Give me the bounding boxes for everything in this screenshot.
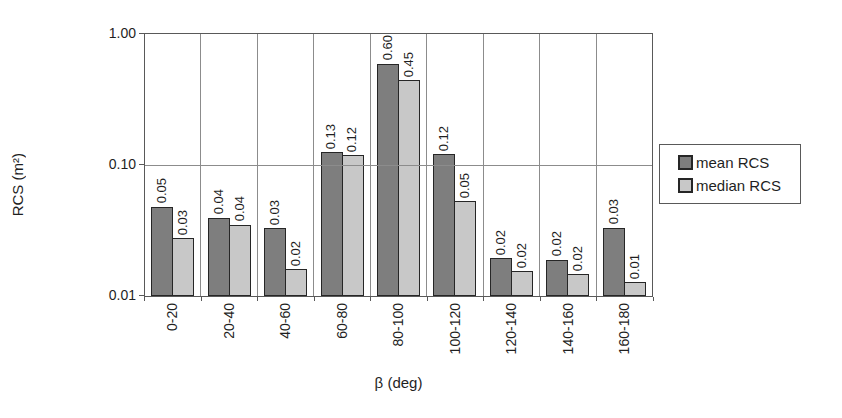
data-label: 0.60 xyxy=(381,35,395,60)
data-label: 0.02 xyxy=(571,246,585,271)
x-label-slot-100-120: 100-120 xyxy=(427,303,484,354)
data-label: 0.02 xyxy=(289,241,303,266)
bar xyxy=(433,154,455,296)
x-category-label: 100-120 xyxy=(448,303,463,354)
x-tick-mark xyxy=(257,297,258,301)
x-label-slot-140-160: 140-160 xyxy=(540,303,597,354)
x-tick-mark xyxy=(370,297,371,301)
data-label: 0.05 xyxy=(155,178,169,203)
data-label: 0.04 xyxy=(212,189,226,214)
x-axis-labels: 0-2020-4040-6060-8080-100100-120120-1401… xyxy=(144,303,653,354)
bar xyxy=(624,282,646,296)
gridline-y-0.1 xyxy=(145,165,652,166)
legend-entry-median-rcs: median RCS xyxy=(678,178,800,193)
legend-label-mean-rcs: mean RCS xyxy=(696,155,769,170)
x-tick-mark xyxy=(314,297,315,301)
data-label: 0.02 xyxy=(550,231,564,256)
x-label-slot-60-80: 60-80 xyxy=(314,303,371,354)
x-tick-mark xyxy=(653,297,654,301)
y-tick-label-0.01: 0.01 xyxy=(88,287,136,303)
x-label-slot-0-20: 0-20 xyxy=(144,303,201,354)
bar xyxy=(208,218,230,296)
x-category-label: 0-20 xyxy=(165,303,180,331)
x-label-slot-80-100: 80-100 xyxy=(370,303,427,354)
bar xyxy=(490,258,512,296)
x-label-slot-40-60: 40-60 xyxy=(257,303,314,354)
legend-swatch-mean-rcs-icon xyxy=(678,155,693,170)
y-axis-title: RCS (m²) xyxy=(4,130,30,240)
y-tick-mark xyxy=(139,33,144,34)
legend-label-median-rcs: median RCS xyxy=(696,178,781,193)
data-label: 0.02 xyxy=(494,230,508,255)
data-label: 0.05 xyxy=(458,173,472,198)
x-category-label: 140-160 xyxy=(561,303,576,354)
y-tick-mark xyxy=(139,164,144,165)
y-tick-label-0.10: 0.10 xyxy=(88,156,136,172)
y-tick-mark xyxy=(139,295,144,296)
data-label: 0.01 xyxy=(628,254,642,279)
bar xyxy=(603,228,625,296)
data-label: 0.45 xyxy=(402,52,416,77)
legend-entry-mean-rcs: mean RCS xyxy=(678,155,800,170)
bar xyxy=(546,260,568,296)
x-category-label: 80-100 xyxy=(391,303,406,347)
bar xyxy=(264,228,286,296)
data-label: 0.03 xyxy=(268,200,282,225)
x-label-slot-160-180: 160-180 xyxy=(597,303,654,354)
x-label-slot-120-140: 120-140 xyxy=(483,303,540,354)
bar xyxy=(398,80,420,296)
bar xyxy=(229,225,251,296)
x-category-label: 120-140 xyxy=(504,303,519,354)
data-label: 0.03 xyxy=(607,199,621,224)
x-tick-mark xyxy=(483,297,484,301)
plot-area: 0.050.030.040.040.030.020.130.120.600.45… xyxy=(144,33,653,297)
x-category-label: 160-180 xyxy=(617,303,632,354)
x-category-label: 60-80 xyxy=(335,303,350,339)
x-category-label: 40-60 xyxy=(278,303,293,339)
bar xyxy=(172,238,194,296)
bar xyxy=(567,274,589,296)
x-tick-mark xyxy=(144,297,145,301)
y-tick-label-1.00: 1.00 xyxy=(88,25,136,41)
x-tick-mark xyxy=(427,297,428,301)
x-tick-mark xyxy=(201,297,202,301)
legend-swatch-median-rcs-icon xyxy=(678,178,693,193)
x-tick-mark xyxy=(596,297,597,301)
x-axis-title: β (deg) xyxy=(144,374,653,391)
data-label: 0.03 xyxy=(176,210,190,235)
bar xyxy=(321,152,343,296)
bar xyxy=(285,269,307,296)
chart-canvas: RCS (m²) 0.050.030.040.040.030.020.130.1… xyxy=(0,0,842,418)
x-label-slot-20-40: 20-40 xyxy=(201,303,258,354)
y-axis-title-text: RCS (m²) xyxy=(9,153,26,216)
data-label: 0.04 xyxy=(233,196,247,221)
bar xyxy=(511,271,533,296)
bar xyxy=(454,201,476,296)
x-tick-mark xyxy=(540,297,541,301)
x-category-label: 20-40 xyxy=(222,303,237,339)
bar xyxy=(377,64,399,296)
data-label: 0.12 xyxy=(345,127,359,152)
bar xyxy=(151,207,173,296)
bar xyxy=(342,155,364,296)
data-label: 0.12 xyxy=(437,126,451,151)
legend: mean RCS median RCS xyxy=(659,144,801,204)
data-label: 0.13 xyxy=(324,124,338,149)
data-label: 0.02 xyxy=(515,243,529,268)
